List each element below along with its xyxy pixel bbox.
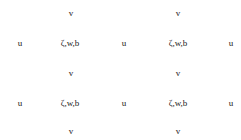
v-node-label: v — [176, 8, 181, 18]
v-node-label: v — [176, 68, 181, 78]
u-node-label: u — [18, 98, 23, 108]
u-node-label: u — [122, 38, 127, 48]
u-node-label: u — [229, 98, 234, 108]
v-node-label: v — [69, 126, 74, 136]
u-node-label: u — [229, 38, 234, 48]
zeta-w-b-node-label: ζ,w,b — [169, 98, 188, 108]
zeta-w-b-node-label: ζ,w,b — [61, 98, 80, 108]
v-node-label: v — [176, 126, 181, 136]
v-node-label: v — [69, 8, 74, 18]
zeta-w-b-node-label: ζ,w,b — [169, 38, 188, 48]
v-node-label: v — [69, 68, 74, 78]
zeta-w-b-node-label: ζ,w,b — [61, 38, 80, 48]
u-node-label: u — [18, 38, 23, 48]
u-node-label: u — [122, 98, 127, 108]
